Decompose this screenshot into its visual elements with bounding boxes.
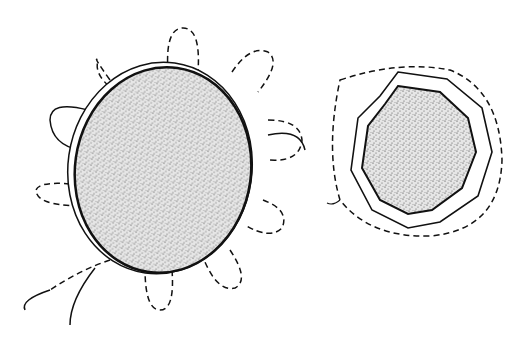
- right-patch: [327, 67, 502, 236]
- left-patch: [24, 28, 305, 325]
- illustration: [0, 0, 526, 348]
